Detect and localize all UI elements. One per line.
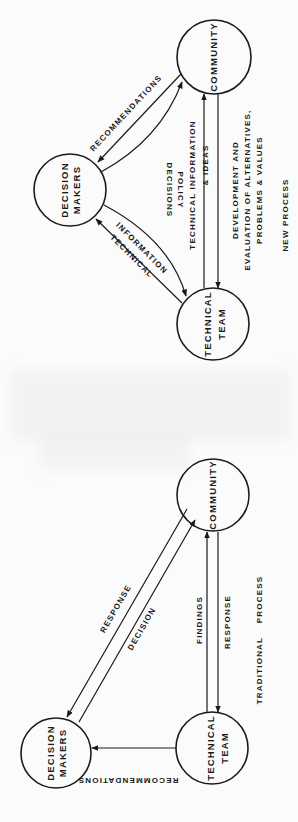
- new-process-diagram: COMMUNITY DECISION MAKERS TECHNICAL TEAM…: [34, 20, 290, 360]
- new-decision-makers-node: DECISION MAKERS: [34, 154, 106, 226]
- new-label-policy: POLICY: [176, 172, 185, 209]
- new-label-evaluation: EVALUATION OF ALTERNATIVES,: [243, 110, 252, 271]
- new-technical-team-label-2: TEAM: [216, 308, 227, 340]
- new-community-node: COMMUNITY: [177, 20, 251, 94]
- new-label-development: DEVELOPMENT AND: [231, 141, 240, 239]
- traditional-process-title: TRADITIONAL PROCESS: [255, 576, 264, 704]
- trad-decision-makers-label-2: MAKERS: [57, 729, 68, 777]
- trad-label-response: RESPONSE: [98, 583, 133, 634]
- trad-community-node: COMMUNITY: [177, 459, 249, 531]
- trad-community-label: COMMUNITY: [207, 460, 218, 529]
- new-decision-makers-label-2: MAKERS: [71, 166, 82, 214]
- trad-label-recommendations: RECOMMENDATIONS: [78, 776, 179, 785]
- trad-edge-response: [67, 509, 187, 717]
- trad-label-findings: FINDINGS: [195, 596, 204, 644]
- new-label-decisions: DECISIONS: [165, 163, 174, 218]
- trad-edge-decision: [79, 520, 195, 722]
- traditional-process-diagram: COMMUNITY DECISION MAKERS TECHNICAL TEAM…: [21, 459, 264, 788]
- trad-technical-team-node: TECHNICAL TEAM: [176, 712, 248, 784]
- new-label-ideas: & IDEAS: [201, 145, 210, 186]
- new-label-problems: PROBLEMS & VALUES: [255, 136, 264, 244]
- trad-technical-team-label-1: TECHNICAL: [205, 715, 216, 781]
- new-label-recommendations: RECOMMENDATIONS: [88, 73, 163, 153]
- new-technical-team-node: TECHNICAL TEAM: [177, 288, 249, 360]
- new-edge-recommendations: [98, 74, 181, 162]
- trad-label-response-tt: RESPONSE: [223, 595, 232, 649]
- process-diagrams: COMMUNITY DECISION MAKERS TECHNICAL TEAM…: [0, 0, 298, 822]
- trad-decision-makers-label-1: DECISION: [45, 725, 56, 781]
- trad-technical-team-label-2: TEAM: [219, 732, 230, 764]
- new-label-tech-info: TECHNICAL INFORMATION: [188, 120, 197, 249]
- new-technical-team-label-1: TECHNICAL: [202, 291, 213, 357]
- new-decision-makers-label-1: DECISION: [59, 162, 70, 218]
- new-community-label: COMMUNITY: [208, 22, 219, 91]
- new-process-title: NEW PROCESS: [281, 178, 290, 251]
